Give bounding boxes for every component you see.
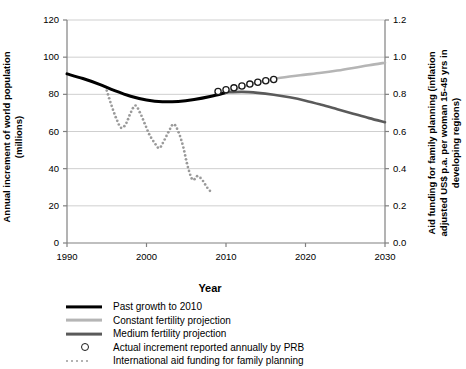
aid-funding-dot [189, 173, 192, 176]
aid-funding-dot [140, 114, 143, 117]
aid-funding-dot [117, 123, 120, 126]
data-point-marker [215, 88, 221, 94]
aid-funding-dot [108, 97, 111, 100]
data-point-marker [223, 87, 229, 93]
y-tick-label-right: 0.6 [393, 126, 427, 137]
aid-funding-dot [206, 186, 209, 189]
y-tick-label-right: 0.2 [393, 200, 427, 211]
aid-funding-dot [174, 124, 177, 127]
data-point-marker [271, 76, 277, 82]
data-point-marker [247, 81, 253, 87]
legend-swatch-solid-lightgray-line [64, 314, 104, 327]
y-tick-label-right: 0.0 [393, 237, 427, 248]
aid-funding-dot [199, 177, 202, 180]
y-tick-label-left: 0 [25, 237, 59, 248]
aid-funding-dot [150, 136, 153, 139]
aid-funding-dot [176, 127, 179, 130]
aid-funding-dot [132, 107, 135, 110]
aid-funding-dot [202, 180, 205, 183]
aid-funding-dot [120, 126, 123, 129]
aid-funding-dot [154, 143, 157, 146]
aid-funding-dot [127, 118, 130, 121]
aid-funding-dot [167, 131, 170, 134]
aid-funding-dot [182, 146, 185, 149]
aid-funding-dot [143, 122, 146, 125]
y-axis-left-title: Annual increment of world population (mi… [2, 40, 24, 230]
legend-label: Past growth to 2010 [113, 301, 202, 312]
data-point-marker [231, 85, 237, 91]
series-line [67, 74, 226, 102]
aid-funding-dot [157, 146, 160, 149]
y-tick-label-left: 60 [25, 126, 59, 137]
y-axis-right-title-text: Aid funding for family planning (inflati… [426, 35, 462, 251]
aid-funding-dot [185, 158, 188, 161]
y-tick-label-left: 80 [25, 88, 59, 99]
aid-funding-dot [110, 105, 113, 108]
aid-funding-dot [113, 112, 116, 115]
series-line [226, 92, 385, 122]
legend-label: International aid funding for family pla… [113, 355, 304, 366]
legend-item: Past growth to 2010 [64, 300, 304, 314]
aid-funding-dot [183, 150, 186, 153]
aid-funding-dot [105, 89, 108, 92]
dotted-line-icon [66, 360, 88, 362]
aid-funding-dot [196, 175, 199, 178]
aid-funding-dot [180, 139, 183, 142]
y-axis-right-title: Aid funding for family planning (inflati… [424, 30, 464, 245]
aid-funding-dot [163, 138, 166, 141]
aid-funding-dot [107, 93, 110, 96]
data-point-marker [239, 83, 245, 89]
aid-funding-dot [188, 170, 191, 173]
aid-funding-dot [179, 135, 182, 138]
aid-funding-dot [145, 125, 148, 128]
aid-funding-dot [169, 127, 172, 130]
aid-funding-dot [123, 125, 126, 128]
aid-funding-dot [190, 177, 193, 180]
aid-funding-dot [184, 154, 187, 157]
aid-funding-dot [134, 104, 137, 107]
y-tick-label-right: 0.8 [393, 88, 427, 99]
legend-swatch-dotted-gray-line [64, 354, 104, 367]
legend-swatch-solid-gray-line [64, 327, 104, 340]
chart-legend: Past growth to 2010Constant fertility pr… [64, 300, 304, 368]
legend-label: Medium fertility projection [113, 328, 226, 339]
aid-funding-dot [186, 162, 189, 165]
x-axis-title: Year [0, 282, 420, 294]
data-point-marker [263, 78, 269, 84]
data-point-marker [255, 79, 261, 85]
aid-funding-dot [130, 110, 133, 113]
legend-label: Actual increment reported annually by PR… [113, 342, 304, 353]
legend-swatch-solid-black-line [64, 300, 104, 313]
aid-funding-dot [160, 145, 163, 148]
series-line [226, 63, 385, 93]
aid-funding-dot [112, 108, 115, 111]
x-tick-label: 2000 [122, 251, 172, 262]
aid-funding-dot [142, 118, 145, 121]
aid-funding-dot [165, 135, 168, 138]
y-tick-label-left: 40 [25, 163, 59, 174]
open-circle-icon [81, 343, 89, 351]
aid-funding-dot [138, 111, 141, 114]
y-tick-label-left: 20 [25, 200, 59, 211]
aid-funding-dot [171, 124, 174, 127]
y-tick-label-right: 1.0 [393, 51, 427, 62]
aid-funding-dot [137, 107, 140, 110]
legend-item: Constant fertility projection [64, 314, 304, 328]
x-tick-label: 2010 [201, 251, 251, 262]
legend-item: Actual increment reported annually by PR… [64, 341, 304, 355]
y-tick-label-right: 0.4 [393, 163, 427, 174]
y-tick-label-right: 1.2 [393, 14, 427, 25]
y-tick-label-left: 120 [25, 14, 59, 25]
y-tick-label-left: 100 [25, 51, 59, 62]
aid-funding-dot [116, 119, 119, 122]
aid-funding-dot [146, 129, 149, 132]
aid-funding-dot [177, 131, 180, 134]
x-tick-label: 2030 [360, 251, 410, 262]
line-icon [66, 305, 102, 308]
legend-item: International aid funding for family pla… [64, 354, 304, 368]
population-increment-chart: Annual increment of world population (mi… [0, 0, 466, 369]
aid-funding-dot [148, 133, 151, 136]
aid-funding-dot [187, 166, 190, 169]
legend-label: Constant fertility projection [113, 315, 231, 326]
line-icon [66, 319, 102, 322]
